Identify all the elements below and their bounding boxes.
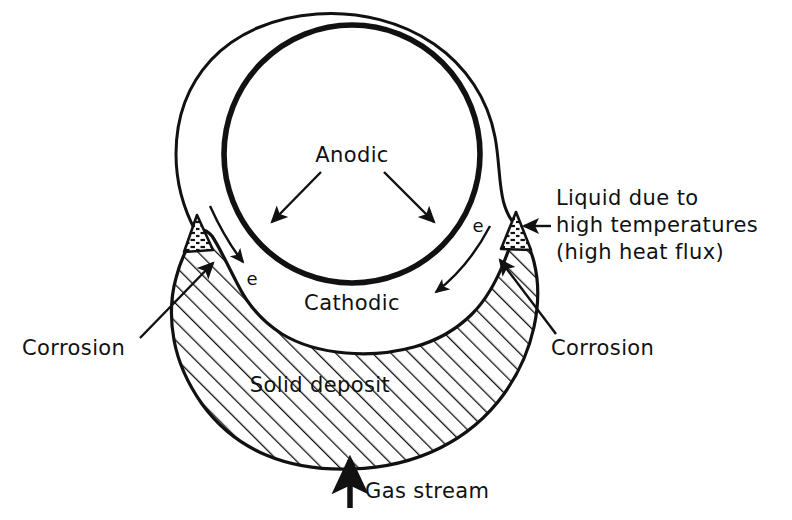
liquid-annotation: Liquid due to high temperatures (high he… bbox=[524, 186, 758, 264]
diagram-root: Anodic Cathodic Solid deposit e e Corros… bbox=[0, 0, 792, 520]
corrosion-diagram-figure: Anodic Cathodic Solid deposit e e Corros… bbox=[0, 0, 792, 520]
electron-label-left: e bbox=[246, 268, 257, 289]
liquid-label-line2: high temperatures bbox=[556, 213, 758, 237]
liquid-label-line3: (high heat flux) bbox=[556, 240, 724, 264]
liquid-label-line1: Liquid due to bbox=[556, 186, 699, 210]
solid-deposit-label: Solid deposit bbox=[250, 373, 391, 397]
electron-label-right: e bbox=[472, 215, 483, 236]
liquid-tip-right-cone bbox=[501, 212, 531, 250]
anodic-label: Anodic bbox=[315, 143, 389, 167]
cathodic-label: Cathodic bbox=[304, 291, 400, 315]
corrosion-left-label: Corrosion bbox=[22, 336, 125, 360]
corrosion-right-label: Corrosion bbox=[551, 336, 654, 360]
liquid-tip-right bbox=[501, 212, 531, 250]
gas-stream-label: Gas stream bbox=[365, 479, 489, 503]
